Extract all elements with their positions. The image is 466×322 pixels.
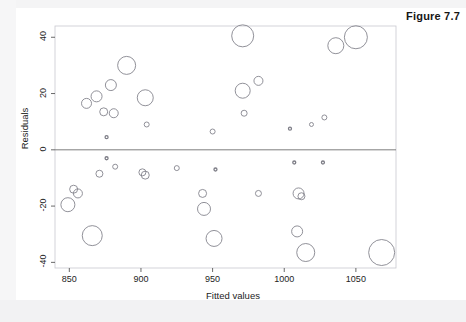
y-tick-label: 20 [38,80,48,106]
figure-root: Figure 7.7 Residuals Fitted values 85090… [0,0,466,322]
y-tick-label: 40 [38,23,48,49]
x-tick-label: 850 [49,274,89,284]
x-tick-label: 1050 [336,274,376,284]
x-tick-label: 950 [193,274,233,284]
y-tick-label: -40 [38,248,48,274]
x-tick-label: 900 [121,274,161,284]
x-tick-label: 1000 [264,274,304,284]
x-axis-title: Fitted values [0,290,466,301]
scatter-plot: Residuals Fitted values 8509009501000105… [0,0,466,322]
y-tick-label: -20 [38,192,48,218]
plot-frame [51,26,396,272]
y-axis-title: Residuals [19,89,30,169]
y-tick-label: 0 [38,136,48,162]
